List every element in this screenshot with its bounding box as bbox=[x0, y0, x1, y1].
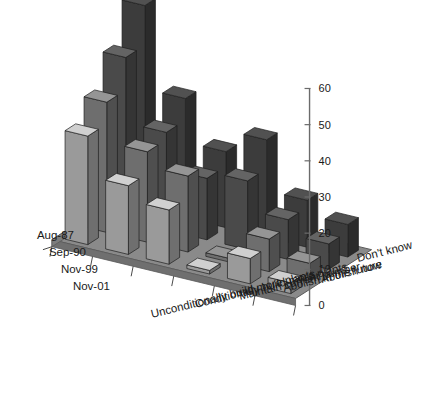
y-axis-tick-label: 40 bbox=[319, 155, 331, 167]
bar bbox=[65, 124, 98, 245]
y-axis-tick-label: 50 bbox=[319, 119, 331, 131]
bar-side-face bbox=[207, 172, 218, 240]
series-axis-label: Aug-87 bbox=[37, 229, 74, 241]
y-axis-tick-label: 0 bbox=[319, 299, 325, 311]
series-axis-label: Nov-01 bbox=[73, 280, 110, 292]
bar-front-face bbox=[106, 180, 129, 254]
bar-front-face bbox=[225, 175, 248, 249]
bar bbox=[227, 246, 260, 284]
bar bbox=[106, 173, 139, 254]
bar-side-face bbox=[169, 203, 180, 264]
bar-side-face bbox=[188, 169, 199, 252]
bar-front-face bbox=[65, 131, 88, 245]
bar-side-face bbox=[88, 129, 99, 244]
series-axis-label: Nov-99 bbox=[61, 263, 98, 275]
bar bbox=[146, 198, 179, 265]
y-axis-tick-label: 60 bbox=[319, 82, 331, 94]
bar-front-face bbox=[146, 205, 169, 265]
bar-side-face bbox=[128, 179, 139, 255]
y-axis-tick-label: 20 bbox=[319, 227, 331, 239]
series-axis-label: Sep-90 bbox=[49, 246, 86, 258]
chart-canvas: 6050403020100 Aug-87Sep-90Nov-99Nov-01Un… bbox=[0, 0, 425, 393]
y-axis-tick-label: 30 bbox=[319, 191, 331, 203]
chart-3d-bar: 6050403020100 Aug-87Sep-90Nov-99Nov-01Un… bbox=[0, 0, 425, 393]
